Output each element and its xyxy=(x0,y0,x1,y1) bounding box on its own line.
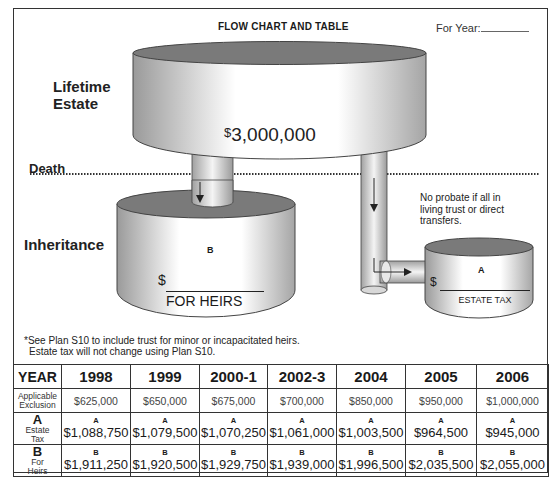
cell-value: $1,920,500 xyxy=(131,457,199,473)
year-cell: 2004 xyxy=(337,365,406,389)
table-row-exclusion: Applicable Exclusion $625,000 $650,000 $… xyxy=(14,389,549,413)
for-heirs-cell: B$1,911,250 xyxy=(62,445,131,477)
table-row-for-heirs: B For Heirs B$1,911,250 B$1,920,500 B$1,… xyxy=(14,445,549,477)
cell-letter: B xyxy=(62,448,130,457)
exclusion-cell: $650,000 xyxy=(131,389,200,413)
estate-tax-cell: A$1,070,250 xyxy=(200,413,268,445)
for-heirs-cell: B$1,920,500 xyxy=(131,445,200,477)
year-cell: 2002-3 xyxy=(268,365,337,389)
year-cell: 2005 xyxy=(406,365,477,389)
cell-value: $1,939,000 xyxy=(268,457,336,473)
cell-value: $1,061,000 xyxy=(268,425,336,441)
cell-letter: B xyxy=(131,448,199,457)
cell-letter: B xyxy=(268,448,336,457)
year-cell: 2006 xyxy=(477,365,549,389)
probate-note-line1: No probate if all in xyxy=(420,192,540,204)
footnote-line2: Estate tax will not change using Plan S1… xyxy=(24,346,300,357)
death-label: Death xyxy=(29,160,65,177)
estate-tax-pipe xyxy=(361,145,428,294)
heirs-tank-label: FOR HEIRS xyxy=(166,291,264,309)
for-heirs-cell: B$1,939,000 xyxy=(268,445,337,477)
year-header: YEAR xyxy=(14,365,62,389)
lifetime-label-line2: Estate xyxy=(53,95,111,112)
flow-diagram xyxy=(0,0,557,360)
cell-value: $945,000 xyxy=(477,425,548,441)
year-cell: 2000-1 xyxy=(200,365,268,389)
probate-note-line3: transfers. xyxy=(420,215,540,227)
cell-value: $964,500 xyxy=(406,425,476,441)
estate-tax-cell: A$945,000 xyxy=(477,413,549,445)
exclusion-cell: $950,000 xyxy=(406,389,477,413)
exclusion-row-label: Applicable Exclusion xyxy=(14,389,62,413)
for-heirs-row-label: B For Heirs xyxy=(14,445,62,477)
exclusion-cell: $1,000,000 xyxy=(477,389,549,413)
estate-tax-cell: A$1,061,000 xyxy=(268,413,337,445)
estate-tax-cell: A$1,079,500 xyxy=(131,413,200,445)
exclusion-cell: $675,000 xyxy=(200,389,268,413)
cell-letter: B xyxy=(406,448,476,457)
cell-letter: A xyxy=(406,416,476,425)
estate-amount-value: 3,000,000 xyxy=(231,124,316,145)
tax-tank-letter: A xyxy=(478,265,485,275)
table-header-row: YEAR 1998 1999 2000-1 2002-3 2004 2005 2… xyxy=(14,365,549,389)
cell-letter: B xyxy=(337,448,405,457)
for-heirs-cell: B$1,996,500 xyxy=(337,445,406,477)
cell-value: $1,996,500 xyxy=(337,457,405,473)
cell-letter: A xyxy=(477,416,548,425)
exclusion-label-line2: Exclusion xyxy=(14,401,61,410)
exclusion-cell: $700,000 xyxy=(268,389,337,413)
for-heirs-cell: B$1,929,750 xyxy=(200,445,268,477)
cell-value: $1,911,250 xyxy=(62,457,130,473)
cell-value: $1,003,500 xyxy=(337,425,405,441)
cell-letter: A xyxy=(200,416,267,425)
cell-letter: B xyxy=(200,448,267,457)
cell-letter: B xyxy=(477,448,548,457)
probate-note-line2: living trust or direct xyxy=(420,204,540,216)
cell-value: $1,088,750 xyxy=(62,425,130,441)
table-row-estate-tax: A Estate Tax A$1,088,750 A$1,079,500 A$1… xyxy=(14,413,549,445)
cell-value: $1,079,500 xyxy=(131,425,199,441)
estate-tax-tank xyxy=(425,238,533,318)
year-cell: 1998 xyxy=(62,365,131,389)
footnote: *See Plan S10 to include trust for minor… xyxy=(24,335,300,357)
heirs-dollar-sign: $ xyxy=(158,272,166,288)
cell-value: $2,055,000 xyxy=(477,457,548,473)
row-sub-tax: Tax xyxy=(14,435,61,444)
tax-tank-label: ESTATE TAX xyxy=(440,290,530,305)
estate-tax-cell: A$1,088,750 xyxy=(62,413,131,445)
for-heirs-cell: B$2,035,500 xyxy=(406,445,477,477)
exclusion-cell: $625,000 xyxy=(62,389,131,413)
cell-value: $1,929,750 xyxy=(200,457,267,473)
cell-value: $2,035,500 xyxy=(406,457,476,473)
probate-note: No probate if all in living trust or dir… xyxy=(420,192,540,227)
cell-letter: A xyxy=(62,416,130,425)
inheritance-label: Inheritance xyxy=(24,236,104,253)
estate-amount: $3,000,000 xyxy=(224,124,316,146)
estate-tax-cell: A$964,500 xyxy=(406,413,477,445)
lifetime-estate-label: Lifetime Estate xyxy=(53,78,111,112)
cell-letter: A xyxy=(131,416,199,425)
estate-tax-cell: A$1,003,500 xyxy=(337,413,406,445)
cell-value: $1,070,250 xyxy=(200,425,267,441)
heirs-tank-letter: B xyxy=(207,245,214,255)
footnote-line1: *See Plan S10 to include trust for minor… xyxy=(24,335,300,346)
estate-tax-table: YEAR 1998 1999 2000-1 2002-3 2004 2005 2… xyxy=(13,364,549,477)
estate-tax-row-label: A Estate Tax xyxy=(14,413,62,445)
cell-letter: A xyxy=(268,416,336,425)
tax-dollar-sign: $ xyxy=(430,275,437,289)
lifetime-label-line1: Lifetime xyxy=(53,78,111,95)
exclusion-cell: $850,000 xyxy=(337,389,406,413)
row-sub-heirs: Heirs xyxy=(14,467,61,476)
year-cell: 1999 xyxy=(131,365,200,389)
for-heirs-cell: B$2,055,000 xyxy=(477,445,549,477)
cell-letter: A xyxy=(337,416,405,425)
